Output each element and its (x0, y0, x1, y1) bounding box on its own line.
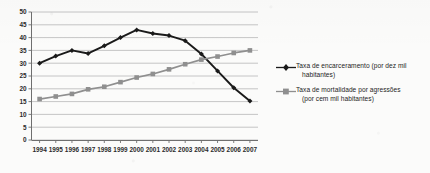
data-point (86, 87, 91, 92)
x-tick-label: 1999 (113, 146, 128, 153)
data-point (118, 80, 123, 85)
y-tick-label: 25 (19, 72, 27, 79)
x-tick-label: 2005 (210, 146, 225, 153)
x-tick-label: 2001 (146, 146, 161, 153)
data-point (53, 94, 58, 99)
y-tick-label: 50 (19, 8, 27, 15)
x-tick-label: 2000 (130, 146, 145, 153)
data-point (199, 57, 204, 62)
x-tick-label: 1995 (49, 146, 64, 153)
legend-label-line1: Taxa de encarceramento (por dez mil (296, 62, 407, 69)
data-point (70, 92, 75, 97)
x-tick-label: 2002 (162, 146, 177, 153)
data-point (151, 72, 156, 77)
y-tick-label: 5 (23, 124, 27, 131)
legend-item-encarceramento: Taxa de encarceramento (por dez mil habi… (276, 62, 428, 79)
y-tick-label: 30 (19, 60, 27, 67)
y-tick-label: 10 (19, 111, 27, 118)
x-tick-label: 1997 (81, 146, 96, 153)
y-tick-label: 15 (19, 98, 27, 105)
data-point (69, 48, 74, 53)
series-line-0 (40, 30, 250, 101)
chart-root: 05101520253035404550 1994199519961997199… (0, 0, 430, 173)
y-tick-label: 45 (19, 21, 27, 28)
x-tick-label: 2006 (227, 146, 242, 153)
y-tick-label: 20 (19, 85, 27, 92)
legend-marker-diamond-icon (276, 63, 296, 72)
chart-legend: Taxa de encarceramento (por dez mil habi… (276, 62, 428, 110)
x-tick-label: 1996 (65, 146, 80, 153)
data-point (37, 97, 42, 102)
x-tick-label: 2003 (178, 146, 193, 153)
data-point (248, 48, 253, 53)
x-tick-label: 1998 (97, 146, 112, 153)
data-point (231, 51, 236, 56)
x-tick-label: 2007 (243, 146, 258, 153)
series-layer (37, 27, 252, 103)
data-point (102, 84, 107, 89)
y-tick-label: 0 (23, 136, 27, 143)
legend-label-line1: Taxa de mortalidade por agressões (296, 86, 401, 93)
x-tick-label: 2004 (194, 146, 209, 153)
data-point (183, 62, 188, 67)
x-tick-label: 1994 (32, 146, 47, 153)
legend-label-line2: (por cem mil habitantes) (296, 95, 401, 104)
legend-label-mortalidade: Taxa de mortalidade por agressões (por c… (296, 86, 401, 103)
legend-marker-square-icon (276, 87, 296, 96)
x-axis-tick-labels: 1994199519961997199819992000200120022003… (32, 146, 257, 153)
data-point (134, 75, 139, 80)
y-tick-label: 35 (19, 47, 27, 54)
data-point (150, 31, 155, 36)
y-tick-label: 40 (19, 34, 27, 41)
legend-label-line2: habitantes) (296, 71, 407, 80)
data-point (215, 54, 220, 59)
legend-item-mortalidade: Taxa de mortalidade por agressões (por c… (276, 86, 428, 103)
data-point (167, 67, 172, 72)
legend-label-encarceramento: Taxa de encarceramento (por dez mil habi… (296, 62, 407, 79)
y-axis-tick-labels: 05101520253035404550 (19, 8, 27, 143)
